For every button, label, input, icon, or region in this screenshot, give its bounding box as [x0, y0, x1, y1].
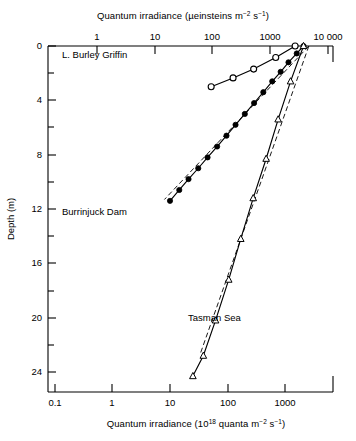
top-tick-label-10: 10 — [150, 31, 161, 42]
bottom-tick-label-0.1: 0.1 — [48, 397, 61, 408]
data-point-marker — [205, 155, 210, 160]
data-point-marker — [177, 187, 182, 192]
data-point-marker — [292, 43, 298, 49]
bottom-axis-title-mid: quanta m — [216, 418, 259, 429]
left-axis-tick-labels: 0 4 8 12 16 20 24 — [31, 40, 42, 377]
data-point-marker — [200, 352, 207, 358]
bottom-tick-label-100: 100 — [220, 397, 236, 408]
top-axis-title-mid: s — [251, 10, 259, 21]
bottom-tick-label-1: 1 — [109, 397, 114, 408]
top-tick-label-1000: 1000 — [259, 31, 280, 42]
bottom-axis-title: Quantum irradiance (1018 quanta m−2 s−1) — [107, 418, 286, 430]
y-axis-title: Depth (m) — [5, 198, 16, 240]
data-point-marker — [167, 198, 172, 203]
series-tasman-sea — [190, 42, 307, 378]
bottom-axis-tick-labels: 0.1 1 10 100 1000 — [48, 397, 295, 408]
data-point-marker — [233, 122, 238, 127]
data-point-marker — [224, 133, 229, 138]
quantum-irradiance-depth-chart: Quantum irradiance (µeinsteins m−2 s−1) … — [0, 0, 356, 441]
data-point-marker — [294, 51, 299, 56]
data-point-marker — [261, 90, 266, 95]
top-axis-tick-labels: 1 10 100 1000 10 000 — [94, 31, 342, 42]
left-tick-label-4: 4 — [37, 94, 42, 105]
plot-data-layer — [164, 42, 308, 378]
left-tick-label-12: 12 — [31, 203, 42, 214]
top-tick-label-1: 1 — [94, 31, 99, 42]
left-tick-label-24: 24 — [31, 366, 42, 377]
data-point-marker — [286, 60, 291, 65]
data-point-marker — [186, 177, 191, 182]
data-point-marker — [208, 84, 214, 90]
data-point-marker — [263, 155, 270, 161]
bottom-axis-title-prefix: Quantum irradiance (10 — [107, 418, 209, 429]
data-point-marker — [190, 372, 197, 378]
data-point-marker — [242, 111, 247, 116]
bottom-axis-title-suffix: ) — [282, 418, 285, 429]
series-burrinjuck-dam — [167, 43, 306, 203]
series-label-tasman-sea: Tasman Sea — [188, 312, 242, 323]
bottom-axis-ticks — [55, 384, 285, 392]
data-point-marker — [270, 79, 275, 84]
left-tick-label-0: 0 — [37, 40, 42, 51]
data-point-marker — [278, 69, 283, 74]
data-point-marker — [251, 66, 257, 72]
top-axis-title-suffix: ) — [266, 10, 269, 21]
bottom-tick-label-10: 10 — [165, 397, 176, 408]
data-point-marker — [273, 55, 279, 61]
data-point-marker — [251, 100, 256, 105]
left-tick-label-16: 16 — [31, 257, 42, 268]
data-point-marker — [196, 166, 201, 171]
bottom-tick-label-1000: 1000 — [274, 397, 295, 408]
series-label-burrinjuck-dam: Burrinjuck Dam — [62, 206, 127, 217]
bottom-axis-title-mid2: s — [267, 418, 275, 429]
top-axis-title-prefix: Quantum irradiance (µeinsteins m — [97, 10, 243, 21]
top-tick-label-10000: 10 000 — [313, 31, 342, 42]
data-point-marker — [287, 78, 294, 84]
data-point-marker — [215, 144, 220, 149]
data-point-marker — [230, 75, 236, 81]
data-point-marker — [225, 276, 232, 282]
axis-frame — [48, 46, 333, 392]
top-tick-label-100: 100 — [204, 31, 220, 42]
left-axis-ticks — [48, 46, 56, 372]
series-label-burley-griffin: L. Burley Griffin — [62, 49, 127, 60]
left-tick-label-20: 20 — [31, 312, 42, 323]
left-tick-label-8: 8 — [37, 149, 42, 160]
data-point-marker — [237, 235, 244, 241]
data-point-marker — [275, 116, 282, 122]
top-axis-title: Quantum irradiance (µeinsteins m−2 s−1) — [97, 10, 269, 22]
